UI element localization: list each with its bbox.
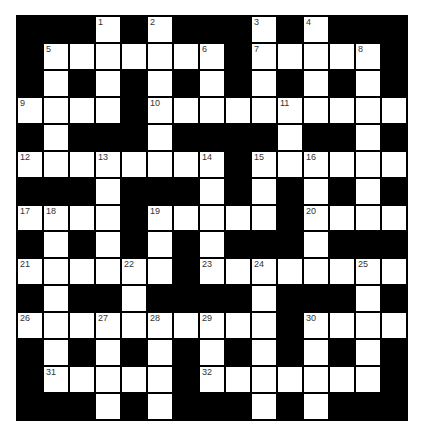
- answer-cell[interactable]: [96, 394, 120, 419]
- answer-cell[interactable]: 9: [18, 98, 42, 123]
- answer-cell[interactable]: [226, 98, 250, 123]
- answer-cell[interactable]: [122, 367, 146, 392]
- answer-cell[interactable]: [70, 44, 94, 69]
- answer-cell[interactable]: [148, 232, 172, 257]
- answer-cell[interactable]: [356, 367, 380, 392]
- answer-cell[interactable]: [382, 98, 406, 123]
- answer-cell[interactable]: 30: [304, 313, 328, 338]
- answer-cell[interactable]: 2: [148, 17, 172, 42]
- answer-cell[interactable]: 15: [252, 152, 276, 177]
- answer-cell[interactable]: [200, 98, 224, 123]
- answer-cell[interactable]: [330, 44, 354, 69]
- answer-cell[interactable]: [252, 394, 276, 419]
- answer-cell[interactable]: [70, 152, 94, 177]
- answer-cell[interactable]: 12: [18, 152, 42, 177]
- answer-cell[interactable]: [330, 259, 354, 284]
- answer-cell[interactable]: [304, 44, 328, 69]
- answer-cell[interactable]: [226, 367, 250, 392]
- answer-cell[interactable]: 14: [200, 152, 224, 177]
- answer-cell[interactable]: 21: [18, 259, 42, 284]
- answer-cell[interactable]: [44, 98, 68, 123]
- answer-cell[interactable]: [44, 152, 68, 177]
- answer-cell[interactable]: [96, 179, 120, 204]
- answer-cell[interactable]: [148, 125, 172, 150]
- answer-cell[interactable]: [122, 44, 146, 69]
- answer-cell[interactable]: [96, 206, 120, 231]
- answer-cell[interactable]: 25: [356, 259, 380, 284]
- answer-cell[interactable]: [200, 206, 224, 231]
- answer-cell[interactable]: [252, 367, 276, 392]
- answer-cell[interactable]: 29: [200, 313, 224, 338]
- answer-cell[interactable]: 3: [252, 17, 276, 42]
- answer-cell[interactable]: [70, 98, 94, 123]
- answer-cell[interactable]: [148, 394, 172, 419]
- answer-cell[interactable]: [226, 206, 250, 231]
- answer-cell[interactable]: 13: [96, 152, 120, 177]
- answer-cell[interactable]: [278, 367, 302, 392]
- answer-cell[interactable]: [330, 367, 354, 392]
- answer-cell[interactable]: [330, 98, 354, 123]
- answer-cell[interactable]: 32: [200, 367, 224, 392]
- answer-cell[interactable]: [44, 340, 68, 365]
- answer-cell[interactable]: [70, 206, 94, 231]
- answer-cell[interactable]: [44, 259, 68, 284]
- answer-cell[interactable]: [382, 259, 406, 284]
- answer-cell[interactable]: 1: [96, 17, 120, 42]
- answer-cell[interactable]: [70, 259, 94, 284]
- answer-cell[interactable]: [148, 259, 172, 284]
- answer-cell[interactable]: 4: [304, 17, 328, 42]
- answer-cell[interactable]: [278, 44, 302, 69]
- answer-cell[interactable]: 10: [148, 98, 172, 123]
- answer-cell[interactable]: [278, 152, 302, 177]
- answer-cell[interactable]: [44, 313, 68, 338]
- answer-cell[interactable]: [226, 313, 250, 338]
- answer-cell[interactable]: [148, 367, 172, 392]
- answer-cell[interactable]: [174, 313, 198, 338]
- answer-cell[interactable]: [304, 179, 328, 204]
- answer-cell[interactable]: 18: [44, 206, 68, 231]
- answer-cell[interactable]: 6: [200, 44, 224, 69]
- answer-cell[interactable]: 19: [148, 206, 172, 231]
- answer-cell[interactable]: [382, 313, 406, 338]
- answer-cell[interactable]: [356, 71, 380, 96]
- answer-cell[interactable]: [226, 259, 250, 284]
- answer-cell[interactable]: [252, 71, 276, 96]
- answer-cell[interactable]: [356, 179, 380, 204]
- answer-cell[interactable]: [122, 313, 146, 338]
- answer-cell[interactable]: [44, 232, 68, 257]
- answer-cell[interactable]: [96, 367, 120, 392]
- answer-cell[interactable]: 24: [252, 259, 276, 284]
- answer-cell[interactable]: [252, 179, 276, 204]
- answer-cell[interactable]: [330, 152, 354, 177]
- answer-cell[interactable]: [96, 71, 120, 96]
- answer-cell[interactable]: 7: [252, 44, 276, 69]
- answer-cell[interactable]: [330, 206, 354, 231]
- answer-cell[interactable]: [278, 259, 302, 284]
- answer-cell[interactable]: [96, 98, 120, 123]
- answer-cell[interactable]: [200, 232, 224, 257]
- answer-cell[interactable]: [356, 313, 380, 338]
- answer-cell[interactable]: [122, 286, 146, 311]
- answer-cell[interactable]: [70, 367, 94, 392]
- answer-cell[interactable]: 20: [304, 206, 328, 231]
- answer-cell[interactable]: 31: [44, 367, 68, 392]
- answer-cell[interactable]: 8: [356, 44, 380, 69]
- answer-cell[interactable]: 11: [278, 98, 302, 123]
- answer-cell[interactable]: [96, 259, 120, 284]
- answer-cell[interactable]: [44, 125, 68, 150]
- answer-cell[interactable]: [356, 206, 380, 231]
- answer-cell[interactable]: [304, 259, 328, 284]
- answer-cell[interactable]: [70, 313, 94, 338]
- answer-cell[interactable]: [44, 71, 68, 96]
- answer-cell[interactable]: [304, 71, 328, 96]
- answer-cell[interactable]: [148, 71, 172, 96]
- answer-cell[interactable]: [252, 313, 276, 338]
- answer-cell[interactable]: [200, 71, 224, 96]
- answer-cell[interactable]: [304, 367, 328, 392]
- answer-cell[interactable]: 28: [148, 313, 172, 338]
- answer-cell[interactable]: 26: [18, 313, 42, 338]
- answer-cell[interactable]: [96, 340, 120, 365]
- answer-cell[interactable]: [356, 286, 380, 311]
- answer-cell[interactable]: [382, 152, 406, 177]
- answer-cell[interactable]: [174, 206, 198, 231]
